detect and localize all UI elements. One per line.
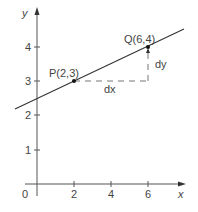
y-tick-label-4: 4 xyxy=(25,41,31,53)
dx-label: dx xyxy=(104,83,116,95)
point-p-label: P(2,3) xyxy=(49,67,79,79)
y-axis-label: y xyxy=(21,7,29,19)
point-q-label: Q(6,4) xyxy=(124,33,155,45)
x-axis-label: x xyxy=(177,188,184,200)
coordinate-graph: 0 2 4 6 x 1 2 3 4 y P(2,3) Q(6,4) dx dy xyxy=(0,0,198,212)
y-tick-label-3: 3 xyxy=(25,75,31,87)
x-tick-label-2: 2 xyxy=(71,188,77,200)
y-axis xyxy=(35,7,40,196)
origin-label: 0 xyxy=(22,188,28,200)
x-tick-label-6: 6 xyxy=(145,188,151,200)
y-axis-arrow-icon xyxy=(35,7,40,15)
y-tick-label-2: 2 xyxy=(25,109,31,121)
point-q xyxy=(146,45,150,49)
x-axis-arrow-icon xyxy=(178,182,186,187)
x-axis xyxy=(25,182,186,187)
dy-label: dy xyxy=(155,58,167,70)
point-p xyxy=(72,79,76,83)
x-tick-label-4: 4 xyxy=(108,188,114,200)
y-tick-label-1: 1 xyxy=(25,144,31,156)
